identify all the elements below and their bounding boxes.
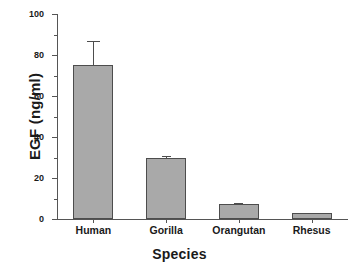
x-category-label: Human [76, 224, 112, 236]
error-bar-cap [234, 203, 243, 204]
bar [292, 213, 332, 219]
bar [146, 158, 186, 219]
y-tick-minor [54, 35, 57, 36]
y-tick-major: 20 [52, 178, 57, 179]
bar-chart-figure: EGF (ng/ml) 020406080100 HumanGorillaOra… [0, 0, 359, 273]
y-tick-minor [54, 117, 57, 118]
y-tick-label: 20 [34, 174, 44, 183]
y-tick-major: 80 [52, 55, 57, 56]
x-category-label: Orangutan [212, 224, 265, 236]
y-tick-label: 40 [34, 133, 44, 142]
y-tick-minor [54, 76, 57, 77]
error-bar [93, 41, 94, 66]
y-tick-label: 0 [39, 215, 44, 224]
y-tick-major: 40 [52, 137, 57, 138]
y-axis-line [57, 14, 58, 219]
error-bar-cap [162, 156, 171, 157]
y-tick-minor [54, 158, 57, 159]
x-tick [93, 219, 94, 223]
error-bar-cap [307, 213, 316, 214]
x-category-label: Gorilla [149, 224, 182, 236]
y-tick-minor [54, 199, 57, 200]
bar [73, 65, 113, 219]
x-category-label: Rhesus [293, 224, 331, 236]
y-tick-label: 60 [34, 92, 44, 101]
y-tick-label: 100 [29, 10, 44, 19]
x-tick [239, 219, 240, 223]
error-bar-cap [87, 41, 100, 42]
x-axis-line [57, 219, 348, 220]
y-tick-major: 100 [52, 14, 57, 15]
plot-area: 020406080100 [57, 14, 348, 219]
y-tick-label: 80 [34, 51, 44, 60]
bar [219, 204, 259, 219]
x-axis-title: Species [0, 246, 359, 262]
x-tick [166, 219, 167, 223]
y-tick-major: 60 [52, 96, 57, 97]
y-tick-major: 0 [52, 219, 57, 220]
x-tick [312, 219, 313, 223]
